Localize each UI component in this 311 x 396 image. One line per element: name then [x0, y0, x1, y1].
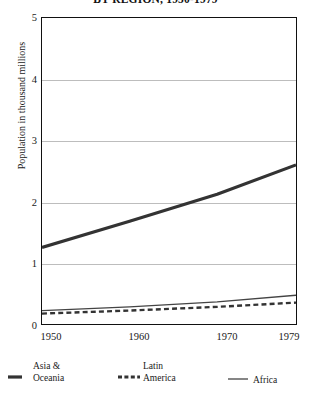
x-axis-tick-labels: 1950 1960 1970 1979 [41, 331, 297, 349]
legend-swatch-latin-america-icon [118, 372, 140, 385]
y-tick-1: 1 [3, 258, 37, 269]
x-tick-1970: 1970 [217, 331, 238, 342]
legend-label-africa: Africa [253, 375, 277, 385]
x-tick-1950: 1950 [41, 331, 62, 342]
page-title: BY REGION, 1950-1979 [0, 0, 311, 5]
series-line-africa [42, 295, 296, 310]
legend-swatch-africa-icon [228, 374, 250, 387]
legend-label-latin-bottom: America [143, 373, 176, 383]
y-tick-5: 5 [3, 12, 37, 23]
x-tick-1960: 1960 [129, 331, 150, 342]
legend-item-asia-oceania[interactable]: Asia & Oceania [8, 360, 64, 385]
legend-label-latin-top: Latin [143, 360, 176, 372]
legend-swatch-asia-oceania-icon [8, 372, 30, 385]
y-axis-tick-labels: 0 1 2 3 4 5 [0, 17, 37, 325]
legend-label-asia-bottom: Oceania [33, 373, 64, 383]
legend: Asia & Oceania Latin America A [0, 360, 311, 396]
x-tick-1979: 1979 [279, 331, 300, 342]
legend-item-africa[interactable]: Africa [228, 374, 277, 387]
series-line-asia-oceania [42, 165, 296, 248]
plot-area [41, 17, 297, 325]
legend-label-asia-top: Asia & [33, 360, 64, 372]
y-tick-4: 4 [3, 73, 37, 84]
y-tick-0: 0 [3, 320, 37, 331]
y-tick-2: 2 [3, 196, 37, 207]
legend-item-latin-america[interactable]: Latin America [118, 360, 176, 385]
series-plot [42, 18, 296, 324]
y-tick-3: 3 [3, 135, 37, 146]
